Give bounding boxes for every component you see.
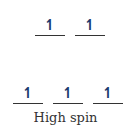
upper-orbital-1: ↿ — [35, 14, 65, 36]
orbital-line — [53, 103, 83, 105]
diagram-caption: High spin — [0, 110, 131, 125]
spin-up-arrow-icon: ↿ — [22, 86, 35, 101]
spin-up-arrow-icon: ↿ — [44, 18, 57, 33]
orbital-line — [35, 35, 65, 37]
orbital-line — [75, 35, 105, 37]
lower-orbital-3: ↿ — [93, 82, 123, 104]
spin-up-arrow-icon: ↿ — [62, 86, 75, 101]
orbital-line — [93, 103, 123, 105]
orbital-line — [13, 103, 43, 105]
lower-orbital-2: ↿ — [53, 82, 83, 104]
spin-up-arrow-icon: ↿ — [102, 86, 115, 101]
upper-orbital-2: ↿ — [75, 14, 105, 36]
lower-orbital-1: ↿ — [13, 82, 43, 104]
spin-up-arrow-icon: ↿ — [84, 18, 97, 33]
